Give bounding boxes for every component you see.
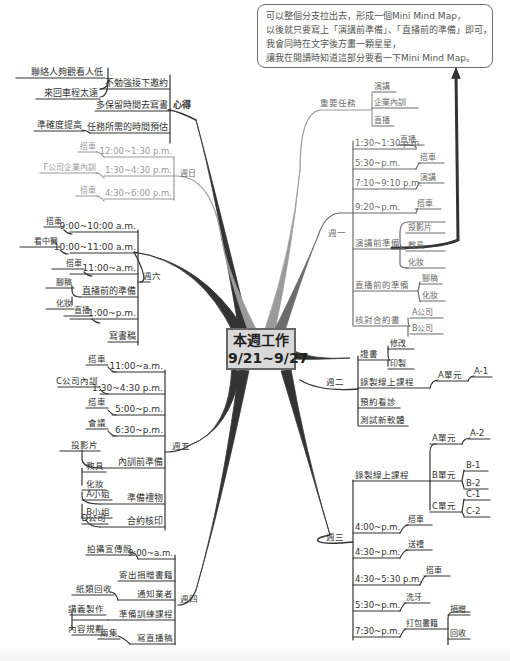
sunday-sub[interactable]: 搭車 bbox=[80, 141, 96, 151]
branch-label-thursday[interactable]: 週四 bbox=[180, 594, 198, 604]
wednesday-time[interactable]: 4:00~p.m. bbox=[355, 522, 400, 532]
wednesday-subsub[interactable]: 捐贈 bbox=[450, 604, 466, 614]
wednesday-unit[interactable]: B單元 bbox=[432, 470, 456, 480]
friday-sub[interactable]: 投影片 bbox=[71, 440, 98, 450]
sunday-time[interactable]: 1:30~4:30 p.m. bbox=[105, 165, 172, 175]
sunday-time[interactable]: 4:30~6:00 p.m. bbox=[105, 188, 172, 198]
wednesday-item[interactable]: 錄製線上課程 bbox=[355, 470, 409, 480]
monday-time[interactable]: 9:20~p.m. bbox=[355, 202, 400, 212]
wednesday-subsub[interactable]: 回收 bbox=[450, 628, 466, 638]
monday-sub[interactable]: 直播 bbox=[400, 134, 416, 144]
friday-item[interactable]: 5:00~p.m. bbox=[115, 404, 163, 414]
saturday-sub[interactable]: 看中醫 bbox=[34, 236, 58, 246]
xinde-item[interactable]: 多保留時間去寫書 bbox=[96, 99, 168, 110]
tuesday-sub[interactable]: A單元 bbox=[438, 370, 462, 380]
xinde-item[interactable]: 任務所需的時間預估 bbox=[87, 121, 168, 132]
tuesday-item[interactable]: 測試新軟體 bbox=[360, 415, 405, 425]
branch-label-saturday[interactable]: 週六 bbox=[143, 271, 161, 281]
saturday-sub[interactable]: 搭車 bbox=[46, 216, 62, 226]
sunday-time[interactable]: 12:00~1:30 p.m. bbox=[100, 146, 173, 156]
wednesday-time[interactable]: 5:30~p.m. bbox=[355, 600, 400, 610]
branch-label-important[interactable]: 重要任務 bbox=[320, 98, 356, 108]
monday-sub[interactable]: 搭車 bbox=[417, 198, 433, 208]
monday-sub[interactable]: 腳稿 bbox=[422, 273, 438, 283]
saturday-item[interactable]: 10:00~11:00 a.m. bbox=[54, 242, 136, 252]
branch-label-xinde[interactable]: 心得 bbox=[173, 99, 191, 110]
friday-sub[interactable]: 搭車 bbox=[88, 354, 106, 364]
monday-sub[interactable]: 投影片 bbox=[408, 222, 432, 232]
monday-time[interactable]: 7:10~9:10 p.m. bbox=[355, 178, 422, 188]
monday-sub[interactable]: 化妝 bbox=[408, 257, 424, 267]
important-item[interactable]: 直播 bbox=[374, 115, 390, 125]
thursday-sub[interactable]: 拍攝宣傳照 bbox=[87, 544, 132, 554]
wednesday-sub[interactable]: 搭車 bbox=[408, 514, 424, 524]
sunday-sub[interactable]: F公司企業內訓 bbox=[43, 162, 96, 172]
thursday-item[interactable]: 9:00~a.m. bbox=[128, 548, 173, 558]
monday-time[interactable]: 5:30~p.m. bbox=[355, 158, 400, 168]
monday-item[interactable]: 直播前的準備 bbox=[355, 280, 409, 290]
sunday-sub[interactable]: 搭車 bbox=[80, 185, 96, 195]
branch-label-monday[interactable]: 週一 bbox=[328, 228, 346, 238]
wednesday-subunit[interactable]: C-2 bbox=[466, 506, 480, 516]
branch-label-wednesday[interactable]: 週三 bbox=[326, 532, 344, 542]
monday-sub[interactable]: 演講 bbox=[420, 172, 436, 182]
wednesday-sub[interactable]: 打包書籍 bbox=[406, 618, 438, 628]
wednesday-subunit[interactable]: A-2 bbox=[470, 428, 484, 438]
friday-item[interactable]: 內訓前準備 bbox=[118, 456, 163, 467]
monday-sub[interactable]: 搭車 bbox=[420, 152, 436, 162]
monday-item[interactable]: 演講前準備 bbox=[355, 238, 400, 248]
thursday-item[interactable]: 寄出捐贈書籍 bbox=[119, 570, 173, 580]
central-topic[interactable]: 本週工作 9/21~9/27 bbox=[226, 328, 296, 370]
xinde-sub[interactable]: 準確度提高 bbox=[37, 119, 82, 130]
wednesday-time[interactable]: 4:30~5:30 p.m. bbox=[355, 574, 422, 584]
monday-item[interactable]: 核對合約書 bbox=[355, 315, 400, 325]
important-item[interactable]: 演講 bbox=[374, 81, 390, 91]
branch-label-friday[interactable]: 週五 bbox=[172, 441, 190, 451]
monday-sub[interactable]: 教具 bbox=[408, 240, 424, 250]
tuesday-item[interactable]: 錄製線上課程 bbox=[360, 377, 414, 387]
thursday-item[interactable]: 寫直播稿 bbox=[137, 633, 173, 643]
saturday-item[interactable]: 1:00~p.m. bbox=[88, 308, 136, 318]
saturday-item[interactable]: 寫書稿 bbox=[109, 330, 136, 341]
friday-sub[interactable]: C公司內訓 bbox=[56, 376, 98, 386]
xinde-item[interactable]: 不勉強接下邀約 bbox=[105, 77, 168, 88]
saturday-sub[interactable]: 搭車 bbox=[66, 258, 82, 268]
friday-sub[interactable]: 會議 bbox=[88, 418, 106, 428]
wednesday-subunit[interactable]: B-1 bbox=[466, 460, 480, 470]
wednesday-unit[interactable]: C單元 bbox=[432, 501, 456, 511]
thursday-sub[interactable]: 講義製作 bbox=[68, 604, 104, 614]
wednesday-sub[interactable]: 送禮 bbox=[408, 539, 424, 549]
wednesday-time[interactable]: 4:30~p.m. bbox=[355, 547, 400, 557]
wednesday-unit[interactable]: A單元 bbox=[432, 433, 456, 443]
monday-sub[interactable]: 化妝 bbox=[422, 290, 438, 300]
monday-sub[interactable]: A公司 bbox=[412, 308, 433, 317]
thursday-sub[interactable]: 紙類回收 bbox=[76, 584, 112, 594]
wednesday-subunit[interactable]: C-1 bbox=[466, 489, 480, 499]
thursday-sub[interactable]: 兩集 bbox=[100, 628, 118, 638]
tuesday-item[interactable]: 證書 bbox=[360, 349, 378, 359]
wednesday-time[interactable]: 7:30~p.m. bbox=[355, 626, 400, 636]
branch-label-tuesday[interactable]: 週二 bbox=[326, 377, 344, 387]
thursday-item[interactable]: 準備訓練課程 bbox=[119, 609, 173, 619]
friday-sub[interactable]: 教具 bbox=[86, 461, 104, 471]
thursday-item[interactable]: 通知業者 bbox=[137, 589, 173, 599]
tuesday-sub[interactable]: 印製 bbox=[390, 358, 406, 368]
wednesday-subunit[interactable]: B-2 bbox=[466, 478, 480, 488]
important-item[interactable]: 企業內訓 bbox=[374, 97, 406, 107]
tuesday-item[interactable]: 預約看診 bbox=[360, 397, 396, 407]
friday-sub[interactable]: D公司 bbox=[81, 513, 106, 523]
tuesday-sub[interactable]: A-1 bbox=[474, 366, 488, 376]
friday-sub[interactable]: 搭車 bbox=[88, 397, 106, 407]
xinde-sub[interactable]: 來回車程太遠 bbox=[44, 87, 98, 98]
saturday-item[interactable]: 11:00~a.m. bbox=[83, 263, 136, 273]
friday-item[interactable]: 1:30~4:30 p.m. bbox=[92, 383, 163, 393]
saturday-sub[interactable]: 直播 bbox=[74, 305, 90, 315]
xinde-sub[interactable]: 聯絡人夠觀看人低 bbox=[31, 66, 103, 77]
wednesday-sub[interactable]: 洗牙 bbox=[406, 592, 422, 602]
friday-item[interactable]: 6:30~p.m. bbox=[115, 425, 163, 435]
friday-item[interactable]: 11:00~a.m. bbox=[110, 361, 163, 371]
saturday-sub[interactable]: 腳稿 bbox=[56, 277, 72, 287]
thursday-sub[interactable]: 內容規劃 bbox=[68, 624, 104, 634]
friday-item[interactable]: 準備禮物 bbox=[127, 492, 163, 503]
branch-label-sunday[interactable]: 週日 bbox=[180, 169, 196, 178]
